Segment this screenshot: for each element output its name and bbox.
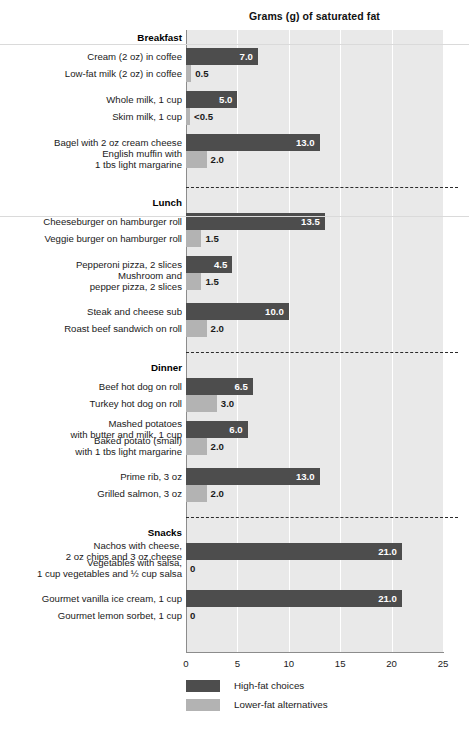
- chart-row: English muffin with 1 tbs light margarin…: [0, 151, 469, 168]
- row-label: Baked potato (small) with 1 tbs light ma…: [0, 435, 182, 458]
- scan-artifact-line: [0, 44, 469, 45]
- bar-value-label: 0.5: [195, 65, 208, 82]
- row-label: Bagel with 2 oz cream cheese: [0, 137, 182, 148]
- chart-row: Vegetables with salsa, 1 cup vegetables …: [0, 560, 469, 577]
- x-tick-label-15: 15: [335, 658, 346, 669]
- chart-row: Beef hot dog on roll6.5: [0, 378, 469, 395]
- bar-value-label: <0.5: [194, 108, 213, 125]
- row-label: Roast beef sandwich on roll: [0, 323, 182, 334]
- chart-row: Skim milk, 1 cup<0.5: [0, 108, 469, 125]
- bar-value-label: 0: [190, 560, 195, 577]
- chart-row: Gourmet lemon sorbet, 1 cup0: [0, 607, 469, 624]
- row-label: Gourmet vanilla ice cream, 1 cup: [0, 593, 182, 604]
- chart-row: Mushroom and pepper pizza, 2 slices1.5: [0, 273, 469, 290]
- chart-row: Steak and cheese sub10.0: [0, 303, 469, 320]
- bar-value-label: 4.5: [186, 256, 232, 273]
- section-divider: [186, 352, 458, 353]
- chart-row: Turkey hot dog on roll3.0: [0, 395, 469, 412]
- row-label: Prime rib, 3 oz: [0, 471, 182, 482]
- legend-swatch-low: [186, 699, 220, 711]
- chart-row: Roast beef sandwich on roll2.0: [0, 320, 469, 337]
- row-label: Cream (2 oz) in coffee: [0, 51, 182, 62]
- section-header-lunch: Lunch: [0, 197, 182, 208]
- bar-low: [186, 65, 191, 82]
- chart-title: Grams (g) of saturated fat: [186, 10, 443, 22]
- chart-row: Veggie burger on hamburger roll1.5: [0, 230, 469, 247]
- bar-value-label: 3.0: [221, 395, 234, 412]
- chart-row: Grilled salmon, 3 oz2.0: [0, 485, 469, 502]
- legend-label: Lower-fat alternatives: [234, 697, 328, 713]
- bar-value-label: 2.0: [211, 151, 224, 168]
- legend-swatch-high: [186, 680, 220, 692]
- bar-low: [186, 438, 207, 455]
- chart-row: Cream (2 oz) in coffee7.0: [0, 48, 469, 65]
- x-tick-label-10: 10: [283, 658, 294, 669]
- chart-row: Low-fat milk (2 oz) in coffee0.5: [0, 65, 469, 82]
- bar-low: [186, 151, 207, 168]
- section-header-breakfast: Breakfast: [0, 32, 182, 43]
- row-label: Skim milk, 1 cup: [0, 111, 182, 122]
- x-tick-label-0: 0: [183, 658, 188, 669]
- saturated-fat-bar-chart: Grams (g) of saturated fat BreakfastCrea…: [0, 0, 469, 729]
- bar-value-label: 21.0: [186, 590, 402, 607]
- x-tick-label-5: 5: [235, 658, 240, 669]
- bar-value-label: 13.0: [186, 134, 320, 151]
- bar-value-label: 1.5: [205, 273, 218, 290]
- bar-low: [186, 108, 190, 125]
- bar-value-label: 2.0: [211, 485, 224, 502]
- x-tick-label-25: 25: [438, 658, 449, 669]
- bar-value-label: 1.5: [205, 230, 218, 247]
- row-label: Whole milk, 1 cup: [0, 94, 182, 105]
- chart-row: Gourmet vanilla ice cream, 1 cup21.0: [0, 590, 469, 607]
- row-label: Veggie burger on hamburger roll: [0, 233, 182, 244]
- row-label: Turkey hot dog on roll: [0, 398, 182, 409]
- legend-item: Lower-fat alternatives: [186, 697, 446, 716]
- bar-low: [186, 395, 217, 412]
- row-label: Low-fat milk (2 oz) in coffee: [0, 68, 182, 79]
- bar-low: [186, 273, 201, 290]
- bar-value-label: 6.5: [186, 378, 253, 395]
- bar-value-label: 0: [190, 607, 195, 624]
- row-label: Beef hot dog on roll: [0, 381, 182, 392]
- x-axis-line: [186, 652, 444, 653]
- legend-label: High-fat choices: [234, 678, 304, 694]
- section-header-dinner: Dinner: [0, 362, 182, 373]
- row-label: Grilled salmon, 3 oz: [0, 488, 182, 499]
- legend: High-fat choicesLower-fat alternatives: [186, 678, 446, 716]
- section-divider: [186, 517, 458, 518]
- bar-low: [186, 320, 207, 337]
- scan-artifact-line: [0, 216, 469, 217]
- row-label: Gourmet lemon sorbet, 1 cup: [0, 610, 182, 621]
- section-header-snacks: Snacks: [0, 527, 182, 538]
- row-label: Mushroom and pepper pizza, 2 slices: [0, 270, 182, 293]
- row-label: Pepperoni pizza, 2 slices: [0, 259, 182, 270]
- bar-low: [186, 230, 201, 247]
- chart-row: Prime rib, 3 oz13.0: [0, 468, 469, 485]
- bar-value-label: 13.0: [186, 468, 320, 485]
- bar-value-label: 10.0: [186, 303, 289, 320]
- bar-value-label: 21.0: [186, 543, 402, 560]
- row-label: English muffin with 1 tbs light margarin…: [0, 148, 182, 171]
- row-label: Steak and cheese sub: [0, 306, 182, 317]
- row-label: Cheeseburger on hamburger roll: [0, 216, 182, 227]
- x-tick-label-20: 20: [386, 658, 397, 669]
- bar-low: [186, 485, 207, 502]
- bar-value-label: 6.0: [186, 421, 248, 438]
- section-divider: [186, 187, 458, 188]
- bar-value-label: 5.0: [186, 91, 237, 108]
- chart-row: Baked potato (small) with 1 tbs light ma…: [0, 438, 469, 455]
- row-label: Vegetables with salsa, 1 cup vegetables …: [0, 557, 182, 580]
- chart-row: Whole milk, 1 cup5.0: [0, 91, 469, 108]
- bar-value-label: 7.0: [186, 48, 258, 65]
- legend-item: High-fat choices: [186, 678, 446, 697]
- bar-value-label: 2.0: [211, 438, 224, 455]
- bar-value-label: 2.0: [211, 320, 224, 337]
